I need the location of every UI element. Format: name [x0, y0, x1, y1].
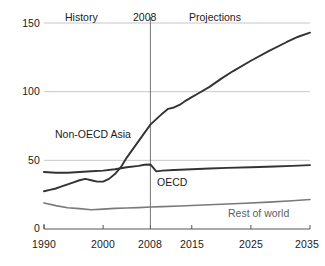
xtick-label-2008: 2008 [130, 238, 170, 250]
axis-lines [44, 224, 310, 229]
annotation-projections: Projections [189, 11, 241, 23]
ytick-label-50: 50 [10, 154, 40, 166]
annotation-year-2008: 2008 [133, 11, 156, 23]
xtick-label-2035: 2035 [287, 238, 325, 250]
annotation-history: History [65, 11, 98, 23]
ytick-label-150: 150 [10, 17, 40, 29]
xtick-label-2015: 2015 [172, 238, 212, 250]
series-label-oecd: OECD [157, 176, 187, 188]
ytick-label-0: 0 [10, 222, 40, 234]
chart-plot-area [0, 0, 325, 266]
ytick-label-100: 100 [10, 85, 40, 97]
series-label-non-oecd-asia: Non-OECD Asia [55, 128, 131, 140]
series-path-oecd [44, 164, 310, 172]
chart-container: 150 100 50 0 1990 2000 2008 2015 2025 20… [0, 0, 325, 266]
xtick-label-1990: 1990 [24, 238, 64, 250]
xtick-label-2000: 2000 [83, 238, 123, 250]
series-label-rest-of-world: Rest of world [228, 207, 289, 219]
xtick-label-2025: 2025 [231, 238, 271, 250]
